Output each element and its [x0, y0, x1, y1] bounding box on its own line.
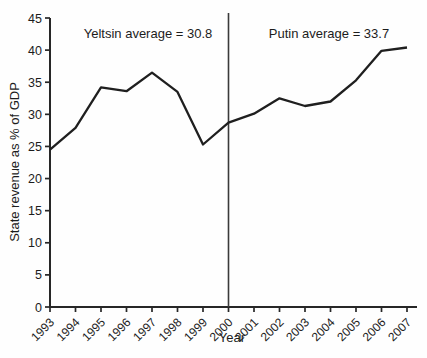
x-tick-label: 1999 [181, 315, 210, 344]
x-tick-label: 1995 [79, 315, 108, 344]
x-tick-label: 2004 [309, 315, 338, 344]
y-tick-label: 20 [28, 172, 42, 186]
x-tick-label: 1993 [28, 315, 57, 344]
y-tick-label: 45 [28, 12, 42, 26]
x-tick-label: 2003 [283, 315, 312, 344]
y-tick-label: 30 [28, 108, 42, 122]
x-axis-title: Year [219, 330, 245, 345]
x-tick-label: 1994 [54, 315, 83, 344]
x-tick-label: 2002 [258, 315, 287, 344]
x-tick-label: 1998 [156, 315, 185, 344]
yeltsin-average-annotation: Yeltsin average = 30.8 [84, 26, 213, 41]
x-tick-label: 2006 [360, 315, 389, 344]
y-tick-label: 40 [28, 44, 42, 58]
putin-average-annotation: Putin average = 33.7 [269, 26, 389, 41]
figure: 0510152025303540451993199419951996199719… [0, 0, 427, 358]
y-axis-title: State revenue as % of GDP [7, 82, 22, 242]
y-tick-label: 35 [28, 76, 42, 90]
y-tick-label: 5 [35, 268, 42, 282]
y-tick-label: 15 [28, 204, 42, 218]
x-tick-label: 2005 [334, 315, 363, 344]
x-tick-label: 1997 [130, 315, 159, 344]
y-tick-label: 25 [28, 140, 42, 154]
y-tick-label: 10 [28, 236, 42, 250]
axes-spine [50, 18, 417, 307]
y-tick-label: 0 [35, 301, 42, 315]
line-chart-canvas: 0510152025303540451993199419951996199719… [0, 0, 427, 358]
x-tick-label: 2007 [385, 315, 414, 344]
x-tick-label: 1996 [105, 315, 134, 344]
